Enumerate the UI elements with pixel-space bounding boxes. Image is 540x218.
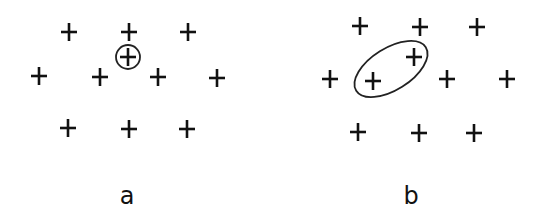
plus-marker [92, 68, 108, 86]
plus-marker [406, 48, 422, 66]
plus-marker [469, 18, 485, 36]
plus-marker [411, 124, 427, 142]
diagram-canvas: a b [0, 0, 540, 218]
plus-marker [209, 69, 225, 87]
panel-a: a [31, 23, 225, 210]
plus-marker [439, 70, 455, 88]
plus-marker [150, 68, 166, 86]
panel-label: a [120, 182, 135, 210]
plus-marker [120, 48, 136, 66]
plus-marker [60, 119, 76, 137]
plus-marker [466, 124, 482, 142]
plus-marker [180, 23, 196, 41]
panel-label: b [403, 182, 418, 210]
plus-marker [61, 23, 77, 41]
plus-marker [412, 18, 428, 36]
plus-marker [365, 72, 381, 90]
plus-marker [179, 120, 195, 138]
plus-marker [352, 17, 368, 35]
plus-marker [31, 67, 47, 85]
highlight-ellipse [345, 29, 437, 108]
plus-marker [499, 70, 515, 88]
panel-b: b [322, 17, 515, 210]
plus-marker [350, 123, 366, 141]
plus-marker [322, 70, 338, 88]
plus-marker [121, 120, 137, 138]
plus-marker [121, 23, 137, 41]
